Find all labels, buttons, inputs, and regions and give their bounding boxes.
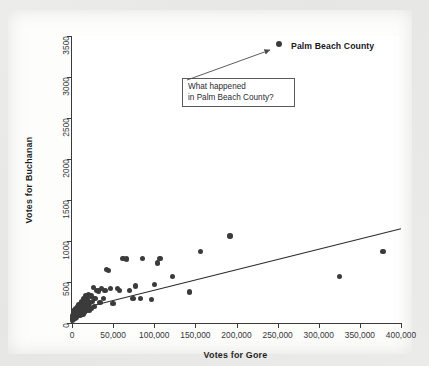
data-point bbox=[337, 274, 342, 279]
data-point bbox=[130, 296, 135, 301]
y-axis-title-text: Votes for Buchanan bbox=[24, 136, 34, 223]
x-axis-tick bbox=[72, 323, 73, 328]
annotation-callout-box: What happened in Palm Beach County? bbox=[182, 78, 295, 107]
x-axis-tick bbox=[154, 323, 155, 328]
y-axis-title: Votes for Buchanan bbox=[22, 36, 36, 323]
callout-line-1: What happened bbox=[188, 82, 290, 93]
data-point bbox=[138, 296, 143, 301]
data-point bbox=[133, 283, 138, 288]
x-axis-title: Votes for Gore bbox=[71, 350, 400, 360]
x-axis-tick bbox=[195, 323, 196, 328]
x-axis-tick bbox=[319, 323, 320, 328]
data-point bbox=[187, 289, 192, 294]
scanned-page: 0500100015002000250030003500050,000100,0… bbox=[8, 10, 412, 354]
palm-beach-data-point bbox=[276, 41, 282, 47]
x-axis-tick bbox=[237, 323, 238, 328]
x-axis-tick bbox=[401, 323, 402, 328]
x-axis-tick bbox=[113, 323, 114, 328]
data-point bbox=[152, 282, 157, 287]
data-point bbox=[227, 233, 232, 238]
data-point bbox=[110, 301, 115, 306]
data-point bbox=[97, 300, 102, 305]
callout-line-2: in Palm Beach County? bbox=[188, 93, 290, 104]
x-axis-tick bbox=[278, 323, 279, 328]
data-point bbox=[170, 274, 175, 279]
data-point bbox=[155, 260, 160, 265]
x-axis-tick bbox=[360, 323, 361, 328]
palm-beach-county-label: Palm Beach County bbox=[291, 41, 374, 51]
data-point bbox=[120, 256, 125, 261]
screenshot-page: 0500100015002000250030003500050,000100,0… bbox=[0, 0, 429, 366]
data-point bbox=[380, 249, 385, 254]
